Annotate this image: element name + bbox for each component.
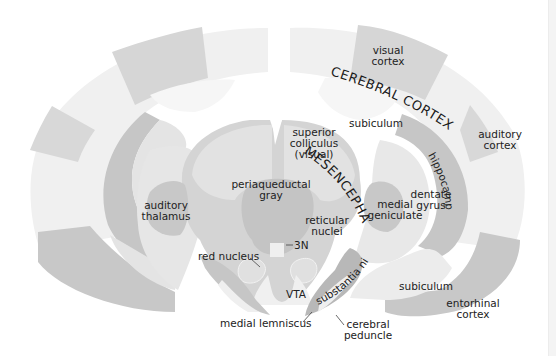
- medial-geniculate-label-line2: geniculate: [367, 209, 422, 221]
- auditory-thalamus-label-line2: thalamus: [142, 210, 191, 222]
- entorhinal-cortex-label-line2: cortex: [456, 308, 489, 320]
- 3n-label: 3N: [294, 239, 309, 251]
- 3n-marker: [270, 243, 284, 257]
- page-edge-strip: [548, 0, 556, 356]
- vta-label: VTA: [286, 288, 307, 300]
- dentate-gyrus-label-line2: gyrus: [416, 199, 445, 211]
- subiculum-top-label: subiculum: [349, 117, 403, 129]
- subiculum-bottom-label: subiculum: [399, 280, 453, 292]
- periaqueductal-gray-label-line2: gray: [259, 189, 283, 201]
- cerebral-peduncle-leader-line: [336, 315, 344, 325]
- red-nucleus-right: [291, 258, 317, 283]
- superior-colliculus-label-line3: (visual): [295, 148, 334, 160]
- auditory-cortex-label-line2: cortex: [483, 139, 516, 151]
- medial-lemniscus-label: medial lemniscus: [220, 317, 312, 329]
- red-nucleus-label: red nucleus: [198, 250, 259, 262]
- visual-cortex-label-line2: cortex: [371, 55, 404, 67]
- reticular-nuclei-label-line2: nuclei: [311, 225, 342, 237]
- cerebral-peduncle-label-line2: peduncle: [344, 329, 392, 341]
